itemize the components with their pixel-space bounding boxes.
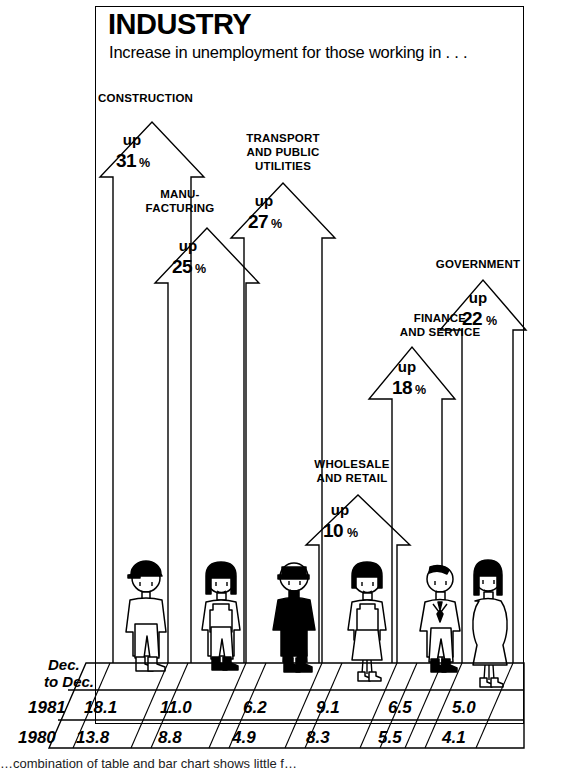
table-cell-1980-transport: 4.9 [231,728,256,747]
table-cell-1981-transport: 6.2 [243,698,267,717]
table-row-header-line2: to Dec. [44,673,94,690]
up-percent-finance: % [415,383,426,397]
up-percent-manufacturing: % [195,262,206,276]
table-cell-1980-finance: 5.5 [378,728,402,747]
table-cell-1981-construction: 18.1 [84,698,117,717]
source-caption: …combination of table and bar chart show… [0,756,587,771]
figure-transit-worker [273,563,315,672]
bar-label-transport-3: UTILITIES [255,160,311,172]
infographic-root: INDUSTRY Increase in unemployment for th… [0,0,587,772]
bar-label-manufacturing-2: FACTURING [146,202,215,214]
up-value-construction: 31 [116,150,137,171]
up-percent-government: % [486,314,497,328]
bar-label-manufacturing-1: MANU- [160,188,199,200]
table-cell-1980-wholesale: 8.3 [306,728,330,747]
up-word-manufacturing: up [179,237,197,254]
up-word-government: up [469,289,487,306]
figure-government-worker [473,560,507,687]
figure-construction-worker [126,561,166,671]
up-percent-construction: % [139,156,150,170]
table-row-year-1980: 1980 [18,728,56,747]
table-cell-1981-government: 5.0 [452,698,476,717]
table-row-header-line1: Dec. [48,656,80,673]
up-percent-wholesale: % [347,526,358,540]
table-cell-1980-construction: 13.8 [76,728,110,747]
bar-label-wholesale-2: AND RETAIL [317,472,388,484]
table-cell-1980-government: 4.1 [441,728,466,747]
up-word-wholesale: up [331,501,349,518]
figure-factory-worker [202,562,240,670]
up-value-transport: 27 [248,211,268,232]
bar-label-finance-1: FINANCE [414,312,467,324]
up-value-finance: 18 [392,377,412,398]
figure-office-worker [420,566,460,672]
table-cell-1981-wholesale: 9.1 [316,698,340,717]
bar-label-government: GOVERNMENT [436,258,520,270]
table-cell-1981-manufacturing: 11.0 [160,698,192,717]
table-row-1981: 1981 18.1 11.0 6.2 9.1 6.5 5.0 [28,698,476,717]
table-row-1980: 1980 13.8 8.8 4.9 8.3 5.5 4.1 [18,728,466,747]
bar-label-wholesale-1: WHOLESALE [314,458,389,470]
up-percent-transport: % [271,217,282,231]
up-word-construction: up [123,131,141,148]
up-word-finance: up [398,358,416,375]
table-cell-1981-finance: 6.5 [388,698,412,717]
table-row-year-1981: 1981 [28,698,66,717]
bar-label-construction: CONSTRUCTION [98,92,193,104]
up-word-transport: up [255,192,273,209]
up-value-manufacturing: 25 [172,256,193,277]
bar-label-transport-1: TRANSPORT [246,132,319,144]
chart-canvas: CONSTRUCTION up 31 % MANU- FACTURING up … [0,0,587,772]
up-value-wholesale: 10 [323,520,343,541]
bar-group-manufacturing[interactable]: MANU- FACTURING up 25 % [146,188,259,663]
table-cell-1980-manufacturing: 8.8 [158,728,182,747]
bar-label-transport-2: AND PUBLIC [247,146,320,158]
up-value-government: 22 [462,308,482,329]
